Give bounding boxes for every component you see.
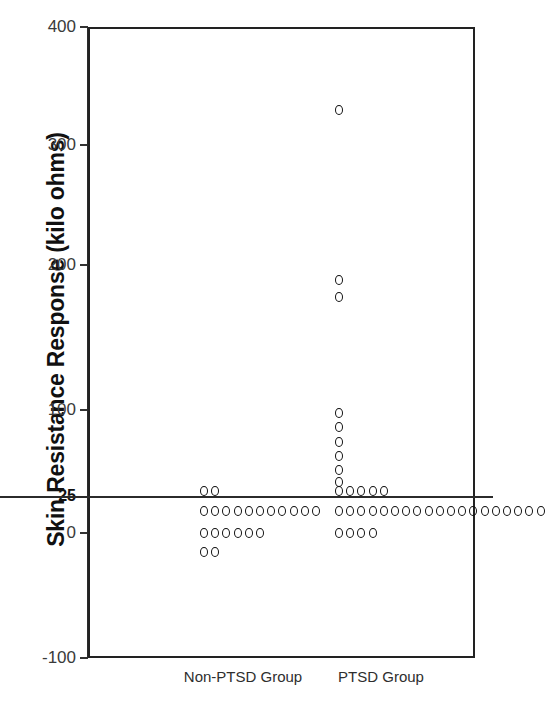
data-point xyxy=(525,506,533,516)
data-point xyxy=(335,292,343,302)
data-point xyxy=(335,528,343,538)
data-point xyxy=(256,528,264,538)
plot-area xyxy=(88,27,475,658)
data-point xyxy=(369,528,377,538)
y-tick-label: 200 xyxy=(4,255,76,275)
y-tick-label: 0 xyxy=(4,523,76,543)
data-point xyxy=(290,506,298,516)
data-point xyxy=(503,506,511,516)
data-point xyxy=(369,486,377,496)
data-point xyxy=(335,275,343,285)
data-point xyxy=(200,547,208,557)
data-point xyxy=(537,506,545,516)
data-point xyxy=(492,506,500,516)
reference-line-25 xyxy=(0,496,493,498)
data-point xyxy=(380,486,388,496)
data-point xyxy=(335,105,343,115)
data-point xyxy=(200,528,208,538)
y-tick-label: 300 xyxy=(4,135,76,155)
data-point xyxy=(245,528,253,538)
data-point xyxy=(469,506,477,516)
x-category-label-0: Non-PTSD Group xyxy=(173,668,313,685)
data-point xyxy=(211,547,219,557)
y-tick-label: -100 xyxy=(4,648,76,668)
x-category-label-1: PTSD Group xyxy=(311,668,451,685)
data-point xyxy=(514,506,522,516)
data-point xyxy=(234,528,242,538)
data-point xyxy=(481,506,489,516)
y-tick-label: 100 xyxy=(4,400,76,420)
data-point xyxy=(369,506,377,516)
y-tick-label: 400 xyxy=(4,17,76,37)
data-point xyxy=(425,506,433,516)
data-point xyxy=(234,506,242,516)
